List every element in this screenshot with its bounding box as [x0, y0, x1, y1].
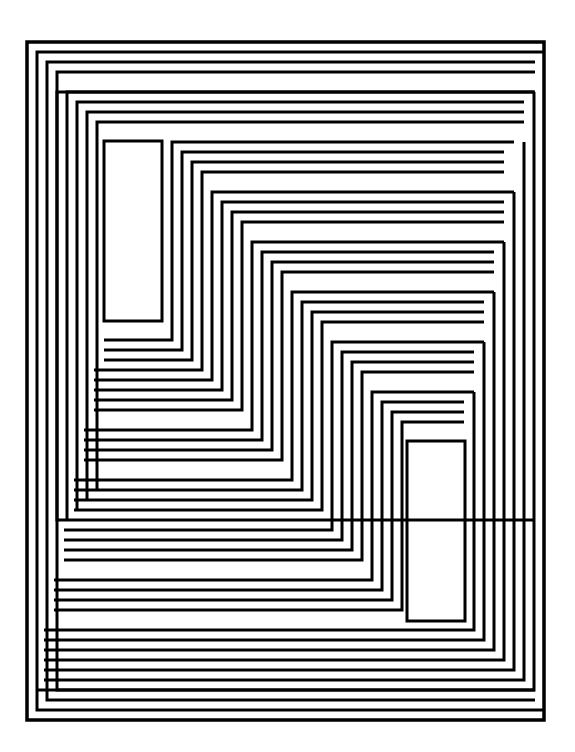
artwork: [0, 0, 575, 752]
line-art-image: [0, 0, 575, 752]
